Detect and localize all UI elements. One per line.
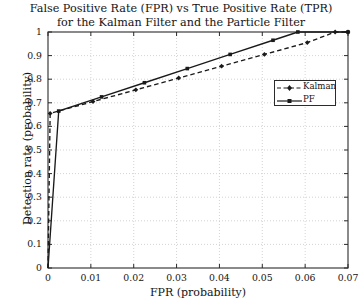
marker-kalman — [176, 76, 181, 81]
legend-swatch-pf — [277, 95, 302, 107]
y-tick-label: 0.2 — [12, 215, 42, 226]
legend-swatch-kalman — [277, 82, 302, 94]
marker-kalman — [133, 87, 138, 92]
x-tick-label: 0.03 — [157, 272, 197, 283]
y-tick-label: 0.5 — [12, 144, 42, 155]
marker-pf — [185, 67, 189, 71]
x-tick-label: 0.05 — [242, 272, 282, 283]
y-tick-label: 0.3 — [12, 191, 42, 202]
plot-area — [0, 0, 362, 306]
x-tick-label: 0.06 — [285, 272, 325, 283]
y-tick-label: 0.6 — [12, 120, 42, 131]
legend-item-pf: PF — [275, 95, 335, 107]
marker-pf — [57, 109, 61, 113]
x-tick-label: 0.04 — [199, 272, 239, 283]
y-tick-label: 0.7 — [12, 97, 42, 108]
marker-pf — [100, 95, 104, 99]
legend-label-kalman: Kalman — [303, 81, 336, 91]
x-tick-label: 0 — [28, 272, 68, 283]
marker-pf — [228, 53, 232, 57]
legend: Kalman PF — [274, 80, 336, 106]
marker-kalman — [305, 40, 310, 45]
marker-pf — [271, 38, 275, 42]
marker-kalman — [219, 64, 224, 69]
marker-pf — [143, 81, 147, 85]
x-tick-label: 0.07 — [328, 272, 362, 283]
y-tick-label: 0.9 — [12, 50, 42, 61]
marker-pf — [296, 30, 300, 34]
legend-item-kalman: Kalman — [275, 82, 335, 94]
marker-pf — [346, 30, 350, 34]
y-tick-label: 0.1 — [12, 238, 42, 249]
x-tick-label: 0.01 — [71, 272, 111, 283]
x-tick-label: 0.02 — [114, 272, 154, 283]
grid-lines — [48, 32, 348, 268]
legend-label-pf: PF — [303, 94, 315, 104]
y-tick-label: 0.4 — [12, 168, 42, 179]
y-tick-label: 1 — [12, 26, 42, 37]
figure: False Positive Rate (FPR) vs True Positi… — [0, 0, 362, 306]
y-tick-label: 0.8 — [12, 73, 42, 84]
marker-kalman — [262, 52, 267, 57]
